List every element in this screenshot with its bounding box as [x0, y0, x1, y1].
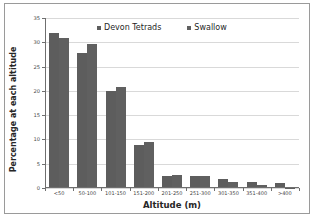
y-axis-line: [45, 18, 46, 188]
x-axis-tick-label: 50-100: [73, 190, 101, 196]
bar: [59, 38, 69, 188]
bar: [49, 33, 59, 188]
bar: [134, 145, 144, 188]
legend-swatch-icon: [97, 26, 101, 30]
bar: [77, 53, 87, 188]
y-axis-tick-label: 5: [37, 161, 40, 167]
gridline: [45, 188, 299, 189]
bar-group: [186, 18, 214, 188]
x-axis-tick-label: 351-400: [243, 190, 271, 196]
y-axis-tick-label: 30: [33, 39, 40, 45]
bar-group: [130, 18, 158, 188]
legend-item: Devon Tetrads: [97, 23, 161, 32]
bar-group: [101, 18, 129, 188]
legend-item: Swallow: [187, 23, 226, 32]
bar-group: [45, 18, 73, 188]
x-axis-tick: [299, 188, 300, 191]
bar-group: [214, 18, 242, 188]
bar-group: [73, 18, 101, 188]
y-axis-tick-label: 25: [33, 64, 40, 70]
y-axis-tick-label: 15: [33, 112, 40, 118]
y-axis-tick-label: 35: [33, 15, 40, 21]
chart-figure: Percentage at each altitude 051015202530…: [4, 3, 310, 214]
x-axis-title: Altitude (m): [45, 200, 299, 210]
legend-label: Swallow: [194, 23, 226, 32]
x-axis-tick-labels: <5050-100101-150151-200201-250251-300301…: [45, 190, 299, 196]
x-axis-tick-label: >400: [271, 190, 299, 196]
x-axis-tick-label: <50: [45, 190, 73, 196]
bar-group: [271, 18, 299, 188]
y-axis-tick-label: 20: [33, 88, 40, 94]
bar-series-container: [45, 18, 299, 188]
y-axis-tick-label: 0: [37, 185, 40, 191]
y-axis-title: Percentage at each altitude: [7, 4, 21, 215]
legend-swatch-icon: [187, 26, 191, 30]
bar: [87, 44, 97, 188]
x-axis-line: [45, 187, 299, 188]
x-axis-tick-label: 251-300: [186, 190, 214, 196]
x-axis-tick-label: 151-200: [130, 190, 158, 196]
bar: [116, 87, 126, 188]
y-axis-tick-label: 10: [33, 136, 40, 142]
x-axis-tick-label: 201-250: [158, 190, 186, 196]
bar-group: [158, 18, 186, 188]
legend-label: Devon Tetrads: [104, 23, 161, 32]
bar-group: [243, 18, 271, 188]
x-axis-tick-label: 301-350: [214, 190, 242, 196]
bar: [144, 142, 154, 188]
x-axis-tick-label: 101-150: [101, 190, 129, 196]
chart-legend: Devon TetradsSwallow: [97, 23, 227, 32]
bar: [106, 91, 116, 188]
plot-area: 05101520253035: [45, 18, 299, 188]
